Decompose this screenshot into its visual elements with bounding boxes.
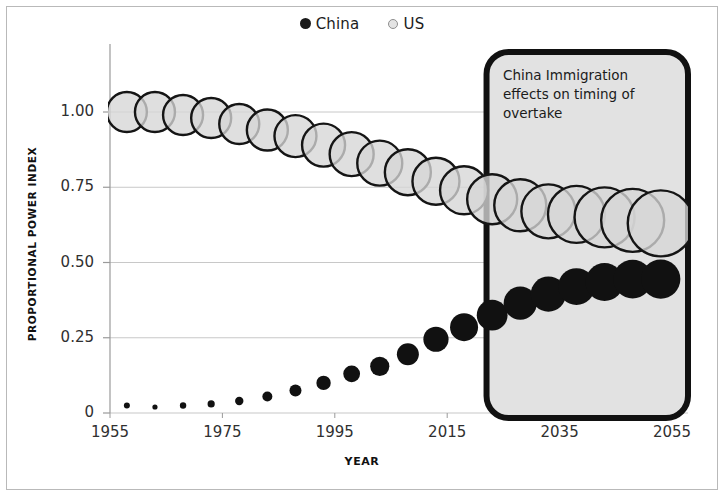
chart-figure: China US China Immigration effects on ti… bbox=[0, 0, 724, 496]
x-tick-label: 2035 bbox=[520, 423, 600, 441]
x-tick-label: 1975 bbox=[182, 423, 262, 441]
y-tick-label: 0.75 bbox=[32, 177, 94, 195]
x-tick-label: 2015 bbox=[407, 423, 487, 441]
annotation-line-1: China Immigration bbox=[503, 66, 669, 85]
y-tick-label: 0.25 bbox=[32, 328, 94, 346]
y-axis-title: PROPORTIONAL POWER INDEX bbox=[26, 134, 38, 354]
y-tick-label: 0 bbox=[32, 403, 94, 421]
x-tick-label: 1955 bbox=[70, 423, 150, 441]
x-axis-title: YEAR bbox=[0, 455, 724, 468]
y-tick-label: 1.00 bbox=[32, 102, 94, 120]
annotation-text: China Immigration effects on timing of o… bbox=[503, 66, 669, 123]
y-tick-label: 0.50 bbox=[32, 253, 94, 271]
x-tick-label: 2055 bbox=[632, 423, 712, 441]
annotation-line-2: effects on timing of bbox=[503, 85, 669, 104]
x-tick-label: 1995 bbox=[295, 423, 375, 441]
annotation-line-3: overtake bbox=[503, 104, 669, 123]
